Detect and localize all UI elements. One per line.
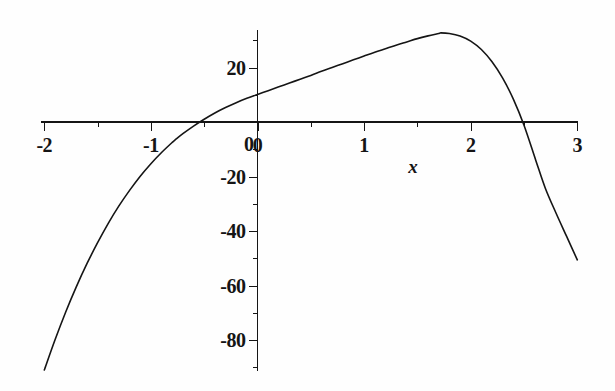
y-tick-label: -80 xyxy=(220,329,245,352)
axis-layer xyxy=(41,30,578,371)
x-tick-label: 0 xyxy=(253,134,263,157)
x-tick-label: 3 xyxy=(573,134,583,157)
x-tick-label: 1 xyxy=(359,134,369,157)
y-tick-label: -20 xyxy=(220,165,245,188)
y-tick-label: 0 xyxy=(244,133,254,156)
y-tick-label: -40 xyxy=(220,220,245,243)
function-curve xyxy=(44,33,577,370)
x-tick-label: -1 xyxy=(143,134,159,157)
y-tick-label: 20 xyxy=(227,56,246,79)
plot-canvas xyxy=(0,0,615,391)
y-tick-label: -60 xyxy=(220,274,245,297)
data-curve-layer xyxy=(44,33,577,370)
x-tick-label: -2 xyxy=(36,134,52,157)
y-axis-ticks xyxy=(249,41,258,368)
x-tick-label: 2 xyxy=(466,134,476,157)
plot-figure: -2-10123 200-20-40-60-80 x xyxy=(0,0,615,391)
x-axis-ticks xyxy=(45,122,578,131)
x-axis-label: x xyxy=(408,156,418,178)
